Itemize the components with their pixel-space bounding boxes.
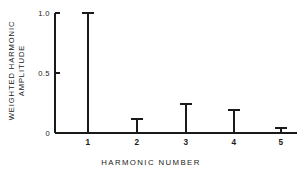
axes — [55, 13, 297, 133]
stem-bar-4 — [228, 110, 240, 133]
stem-bar-2 — [131, 119, 143, 133]
chart-figure: WEIGHTED HARMONIC AMPLITUDE 0 0.5 1.0 1 … — [0, 0, 302, 176]
stem-series — [82, 13, 287, 133]
stem-bar-1 — [82, 13, 94, 133]
stem-bar-3 — [180, 104, 192, 133]
stem-bar-5 — [275, 128, 287, 133]
plot-area — [0, 0, 302, 176]
